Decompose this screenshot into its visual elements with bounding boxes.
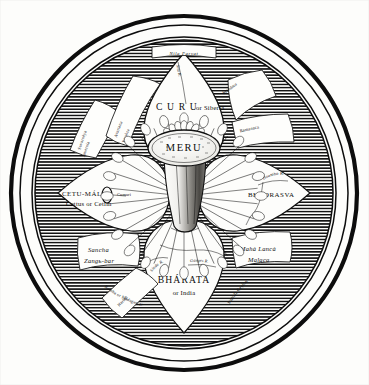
top-cartouche-label: Nila Parvat xyxy=(168,51,198,56)
island-sancha-alt: Zangь-bar xyxy=(84,257,114,264)
island-maha-lanca-alt: Malaca xyxy=(247,256,270,263)
cosmographic-plate: C U R U or Siberia Sita R. BHADRASVA Hoa… xyxy=(0,0,369,385)
petal-curu-label: C U R U xyxy=(156,101,198,112)
petal-cetumal-label: CETU-MÁL xyxy=(62,190,102,197)
petal-curu-alt: or Siberia xyxy=(196,104,224,111)
island-maha-lanca-label: Mahà Lancà xyxy=(239,245,276,252)
cumari-label: Cumari xyxy=(117,192,132,197)
island-sancha-label: Sancha xyxy=(88,246,109,253)
top-cartouche[interactable]: Nila Parvat xyxy=(152,45,216,59)
petal-bharata-alt: or India xyxy=(173,289,196,296)
meru-label: MERU xyxy=(166,142,202,153)
plate-svg: C U R U or Siberia Sita R. BHADRASVA Hoa… xyxy=(0,0,369,385)
